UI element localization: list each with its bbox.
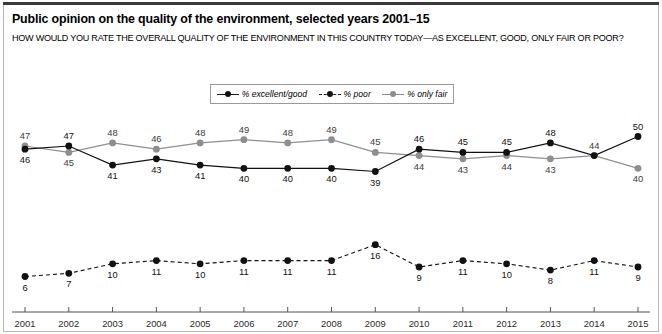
data-point-label: 11	[239, 267, 249, 277]
data-point-label: 45	[458, 137, 468, 147]
data-point-label: 49	[326, 125, 336, 135]
x-axis-tick-label: 2004	[146, 318, 167, 329]
data-point-label: 48	[545, 128, 555, 138]
data-point-label: 48	[282, 128, 292, 138]
data-point-label: 9	[635, 273, 640, 283]
data-point-label: 43	[151, 165, 161, 175]
legend-item-only-fair[interactable]: % only fair	[382, 89, 447, 99]
data-point-label: 46	[414, 134, 424, 144]
data-point-label: 9	[416, 273, 421, 283]
chart-figure: Public opinion on the quality of the env…	[0, 0, 662, 334]
legend-marker-poor-icon	[319, 90, 341, 99]
data-point-label: 46	[20, 155, 30, 165]
legend-label-only-fair: % only fair	[407, 89, 447, 99]
data-point-label: 48	[107, 128, 117, 138]
figure-frame	[3, 5, 659, 332]
data-point-label: 45	[370, 137, 380, 147]
x-axis-tick-label: 2010	[409, 318, 430, 329]
data-point-label: 45	[64, 158, 74, 168]
data-point-label: 46	[151, 134, 161, 144]
data-point-label: 10	[195, 270, 205, 280]
x-axis-tick-label: 2015	[628, 318, 649, 329]
data-point-label: 11	[151, 267, 161, 277]
data-point-label: 47	[20, 131, 30, 141]
data-point-label: 43	[458, 165, 468, 175]
data-point-label: 40	[282, 174, 292, 184]
data-point-label: 43	[545, 165, 555, 175]
chart-subtitle: HOW WOULD YOU RATE THE OVERALL QUALITY O…	[12, 33, 623, 43]
data-point-label: 50	[633, 122, 643, 132]
x-axis-tick-label: 2012	[496, 318, 517, 329]
data-point-label: 47	[64, 131, 74, 141]
data-point-label: 45	[501, 137, 511, 147]
data-point-label: 49	[239, 125, 249, 135]
x-axis-tick-label: 2001	[15, 318, 36, 329]
data-point-label: 11	[283, 267, 293, 277]
data-point-label: 16	[370, 251, 380, 261]
data-point-label: 11	[589, 267, 599, 277]
x-axis-tick-label: 2007	[277, 318, 298, 329]
x-axis-tick-label: 2005	[190, 318, 211, 329]
data-point-label: 39	[370, 178, 380, 188]
legend-marker-only-fair-icon	[382, 90, 404, 99]
x-axis-tick-label: 2002	[58, 318, 79, 329]
legend-label-excellent-good: % excellent/good	[242, 89, 307, 99]
data-point-label: 11	[327, 267, 337, 277]
x-axis-tick-label: 2014	[584, 318, 605, 329]
x-axis-tick-label: 2009	[365, 318, 386, 329]
legend-label-poor: % poor	[344, 89, 371, 99]
legend-marker-excellent-good-icon	[217, 90, 239, 99]
data-point-label: 7	[66, 279, 71, 289]
x-axis-tick-label: 2011	[453, 318, 473, 329]
data-point-label: 44	[414, 162, 424, 172]
data-point-label: 40	[633, 174, 643, 184]
data-point-label: 10	[501, 270, 511, 280]
data-point-label: 40	[239, 174, 249, 184]
data-point-label: 10	[107, 270, 117, 280]
x-axis-tick-label: 2013	[540, 318, 561, 329]
data-point-label: 6	[22, 283, 27, 293]
x-axis-tick-label: 2003	[102, 318, 123, 329]
chart-title: Public opinion on the quality of the env…	[12, 12, 429, 26]
data-point-label: 11	[458, 267, 468, 277]
data-point-label: 40	[326, 174, 336, 184]
chart-legend: % excellent/good % poor % only fair	[210, 84, 454, 104]
data-point-label: 44	[589, 141, 599, 151]
data-point-label: 41	[195, 171, 205, 181]
data-point-label: 48	[195, 128, 205, 138]
x-axis-tick-label: 2006	[233, 318, 254, 329]
legend-item-poor[interactable]: % poor	[319, 89, 371, 99]
data-point-label: 8	[548, 276, 553, 286]
legend-item-excellent-good[interactable]: % excellent/good	[217, 89, 307, 99]
data-point-label: 44	[501, 162, 511, 172]
x-axis-tick-label: 2008	[321, 318, 342, 329]
data-point-label: 41	[107, 171, 117, 181]
